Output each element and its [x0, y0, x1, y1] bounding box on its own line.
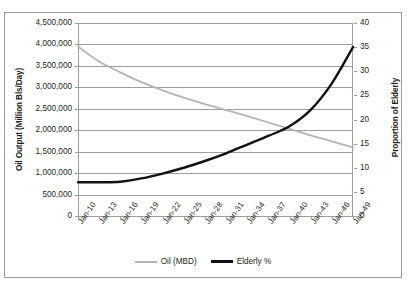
y-axis-left-tick-mark	[75, 87, 78, 88]
legend-label: Oil (MBD)	[161, 257, 197, 266]
y-axis-left-title: Oil Output (Million Bls/Day)	[15, 55, 24, 185]
y-axis-right-tick-label: 15	[360, 140, 369, 148]
y-axis-right-tick-label: 20	[360, 116, 369, 124]
y-axis-left-tick-label: 2,000,000	[36, 126, 72, 134]
y-axis-right-tick-mark	[354, 23, 357, 24]
y-axis-left-tick-mark	[75, 152, 78, 153]
plot-area: 0500,0001,000,0001,500,0002,000,0002,500…	[78, 23, 353, 216]
y-axis-right-tick-label: 30	[360, 67, 369, 75]
legend-item[interactable]: Elderly %	[211, 257, 272, 266]
y-axis-left-tick-label: 4,000,000	[36, 40, 72, 48]
y-axis-right-tick-label: 10	[360, 164, 369, 172]
y-axis-right-tick-mark	[354, 144, 357, 145]
y-axis-right-tick-mark	[354, 95, 357, 96]
y-axis-left-tick-label: 3,000,000	[36, 83, 72, 91]
y-axis-left-tick-mark	[75, 109, 78, 110]
y-axis-left-tick-label: 0	[67, 212, 72, 220]
chart-legend: Oil (MBD)Elderly %	[5, 257, 401, 266]
legend-swatch-elderly-icon	[211, 260, 233, 263]
y-axis-left-tick-label: 500,000	[42, 191, 72, 199]
y-axis-right-tick-label: 5	[360, 188, 365, 196]
y-axis-left-tick-label: 1,500,000	[36, 148, 72, 156]
legend-item[interactable]: Oil (MBD)	[135, 257, 197, 266]
legend-label: Elderly %	[237, 257, 272, 266]
legend-swatch-oil-icon	[135, 261, 157, 263]
series-line-elderly	[78, 47, 353, 182]
y-axis-left-tick-mark	[75, 173, 78, 174]
y-axis-right-title: Proportion of Elderly	[391, 58, 400, 178]
y-axis-right-tick-label: 25	[360, 91, 369, 99]
y-axis-left-tick-mark	[75, 195, 78, 196]
y-axis-left-tick-mark	[75, 23, 78, 24]
y-axis-left-tick-mark	[75, 44, 78, 45]
x-axis-tick-label: Jan-49	[352, 201, 373, 226]
y-axis-right-tick-mark	[354, 168, 357, 169]
y-axis-left-tick-label: 3,500,000	[36, 62, 72, 70]
series-line-oil-mbd	[78, 47, 353, 148]
y-axis-right-tick-mark	[354, 120, 357, 121]
y-axis-left-tick-label: 2,500,000	[36, 105, 72, 113]
chart-container: Oil Output (Million Bls/Day) Proportion …	[4, 12, 402, 278]
y-axis-right-tick-label: 35	[360, 43, 369, 51]
y-axis-right-tick-mark	[354, 71, 357, 72]
y-axis-right-tick-mark	[354, 192, 357, 193]
y-axis-right-tick-label: 40	[360, 19, 369, 27]
series-layer	[78, 23, 353, 216]
y-axis-right-tick-mark	[354, 47, 357, 48]
y-axis-left-tick-label: 1,000,000	[36, 169, 72, 177]
y-axis-left-tick-mark	[75, 130, 78, 131]
y-axis-left-tick-label: 4,500,000	[36, 19, 72, 27]
y-axis-left-tick-mark	[75, 66, 78, 67]
